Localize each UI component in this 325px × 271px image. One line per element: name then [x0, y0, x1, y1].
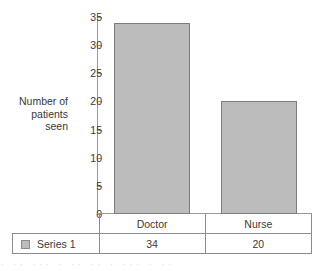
bar-nurse: [221, 101, 297, 214]
y-tick-label-wrap: 30: [60, 40, 102, 41]
column-header-nurse: Nurse: [205, 214, 311, 234]
table-row-headers: Doctor Nurse: [13, 214, 312, 234]
value-cell-nurse: 20: [205, 234, 311, 254]
y-tick-label-wrap: 25: [60, 68, 102, 69]
data-table: Doctor Nurse Series 1 34 20: [12, 214, 312, 254]
series-swatch-icon: [21, 240, 30, 249]
column-header-doctor: Doctor: [99, 214, 205, 234]
series-label: Series 1: [37, 238, 76, 250]
table-row-series-1: Series 1 34 20: [13, 234, 312, 254]
legend-cell: Series 1: [13, 234, 100, 254]
y-tick-label-wrap: 35: [60, 12, 102, 13]
y-tick-label-wrap: 20: [60, 96, 102, 97]
plot-area: [98, 17, 312, 214]
y-tick-label-wrap: 5: [60, 181, 102, 182]
y-tick-label-wrap: 0: [60, 209, 102, 210]
bar-chart-figure: Number of patients seen 35302520151050 D…: [0, 0, 325, 271]
bar-doctor: [114, 23, 190, 214]
y-axis-title: Number of patients seen: [2, 95, 68, 133]
value-cell-doctor: 34: [99, 234, 205, 254]
y-tick-label-wrap: 10: [60, 153, 102, 154]
scan-artifact-strip: · ·· ··· · ·· ·· · ··· · ··: [0, 258, 325, 271]
table-corner-cell: [13, 214, 100, 234]
y-tick-label-wrap: 15: [60, 125, 102, 126]
